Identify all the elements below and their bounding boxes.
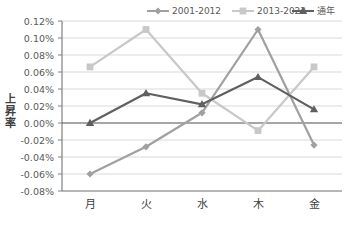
y-axis-ticks: 0.12%0.10%0.08%0.06%0.04%0.02%0.00%-0.02… xyxy=(20,16,62,197)
y-axis-label-char: 上 xyxy=(5,92,16,106)
y-tick-label: 0.10% xyxy=(24,33,54,44)
legend-label: 2001-2012 xyxy=(172,6,221,16)
series-group xyxy=(86,26,318,178)
y-tick-label: 0.02% xyxy=(24,101,54,112)
legend-item: 2001-2012 xyxy=(147,6,221,16)
y-axis-label-char: 率 xyxy=(5,116,16,130)
legend-marker-square-icon xyxy=(240,8,247,15)
y-tick-label: -0.08% xyxy=(20,186,54,197)
data-point-triangle xyxy=(142,89,150,96)
legend-marker-diamond-icon xyxy=(154,7,161,14)
x-category-label: 木 xyxy=(253,198,264,211)
data-point-square xyxy=(311,64,318,71)
data-point-square xyxy=(87,64,94,71)
data-point-triangle xyxy=(254,73,262,80)
y-axis-label: 上昇率 xyxy=(5,92,16,130)
x-category-label: 水 xyxy=(197,198,208,211)
x-category-label: 火 xyxy=(141,198,152,211)
data-point-diamond xyxy=(310,142,317,149)
line-chart: 0.12%0.10%0.08%0.06%0.04%0.02%0.00%-0.02… xyxy=(0,0,345,226)
x-category-label: 月 xyxy=(85,198,96,211)
data-point-square xyxy=(255,127,262,134)
data-point-square xyxy=(199,90,206,97)
y-tick-label: -0.04% xyxy=(20,152,54,163)
y-tick-label: 0.00% xyxy=(24,118,54,129)
legend-label: 通年 xyxy=(317,5,335,16)
x-category-label: 金 xyxy=(309,197,320,211)
y-tick-label: 0.08% xyxy=(24,50,54,61)
data-point-diamond xyxy=(86,170,93,177)
y-tick-label: -0.02% xyxy=(20,135,54,146)
data-point-square xyxy=(143,26,150,33)
y-tick-label: -0.06% xyxy=(20,169,54,180)
y-tick-label: 0.06% xyxy=(24,67,54,78)
y-tick-label: 0.12% xyxy=(24,16,54,27)
legend: 2001-20122013-2023通年 xyxy=(147,5,335,16)
x-axis-categories: 月火水木金 xyxy=(85,197,320,211)
y-tick-label: 0.04% xyxy=(24,84,54,95)
